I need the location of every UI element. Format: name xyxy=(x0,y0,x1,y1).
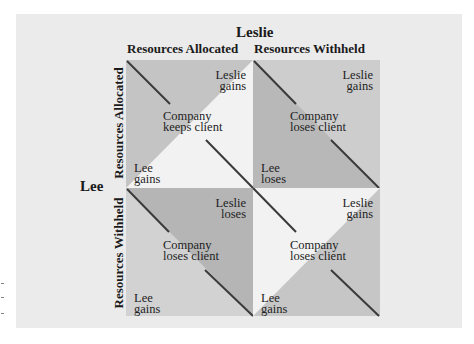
lee-outcome-label: Lee loses xyxy=(261,163,286,185)
margin-mark xyxy=(1,297,4,298)
leslie-outcome-label: Leslie loses xyxy=(206,198,246,220)
lee-result: gains xyxy=(134,304,160,315)
lee-outcome-label: Lee gains xyxy=(134,293,160,315)
company-outcome-label: Company loses client xyxy=(163,240,219,262)
leslie-outcome-label: Leslie gains xyxy=(333,198,373,220)
outcome-line-2: loses client xyxy=(290,122,346,133)
lee-result: loses xyxy=(261,174,286,185)
leslie-result: gains xyxy=(333,209,373,220)
leslie-outcome-label: Leslie gains xyxy=(333,70,373,92)
leslie-result: loses xyxy=(206,209,246,220)
lee-result: gains xyxy=(261,304,287,315)
company-outcome-label: Company keeps client xyxy=(163,111,222,133)
leslie-result: gains xyxy=(206,81,246,92)
outcome-line-2: loses client xyxy=(290,251,346,262)
leslie-outcome-label: Leslie gains xyxy=(206,70,246,92)
margin-mark xyxy=(1,283,4,284)
company-outcome-label: Company loses client xyxy=(290,111,346,133)
payoff-matrix xyxy=(0,0,474,344)
margin-mark xyxy=(1,313,4,314)
company-outcome-label: Company loses client xyxy=(290,240,346,262)
lee-result: gains xyxy=(134,174,160,185)
outcome-line-2: keeps client xyxy=(163,122,222,133)
lee-outcome-label: Lee gains xyxy=(134,163,160,185)
leslie-result: gains xyxy=(333,81,373,92)
lee-outcome-label: Lee gains xyxy=(261,293,287,315)
outcome-line-2: loses client xyxy=(163,251,219,262)
